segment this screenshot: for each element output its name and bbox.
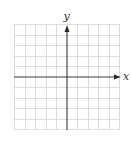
y-axis-label: y: [63, 10, 71, 23]
x-axis: x: [14, 70, 130, 83]
x-axis-arrow-icon: [114, 75, 121, 80]
coordinate-plane: x y: [0, 0, 131, 142]
y-axis-arrow-icon: [65, 25, 70, 32]
y-axis: y: [63, 10, 71, 130]
x-axis-label: x: [123, 70, 130, 83]
